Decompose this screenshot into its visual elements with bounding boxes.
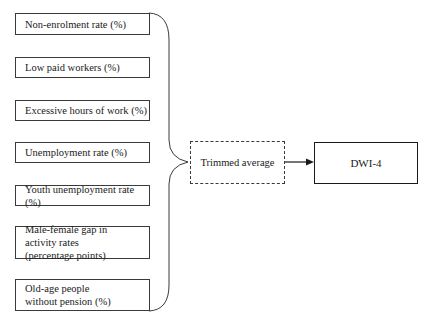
input-old-age-pension: Old-age people without pension (%): [15, 279, 150, 311]
output-label: DWI-4: [350, 157, 381, 169]
input-excessive-hours: Excessive hours of work (%): [15, 100, 150, 121]
aggregator-label: Trimmed average: [201, 157, 275, 168]
input-low-paid: Low paid workers (%): [15, 57, 150, 78]
aggregator-box: Trimmed average: [190, 141, 285, 184]
input-youth-unemployment: Youth unemployment rate (%): [15, 185, 150, 206]
input-label: Youth unemployment rate (%): [25, 183, 149, 209]
input-label: Old-age people without pension (%): [25, 282, 119, 308]
input-label: Unemployment rate (%): [25, 146, 127, 159]
input-label: Non-enrolment rate (%): [25, 18, 126, 31]
input-label: Low paid workers (%): [25, 61, 120, 74]
input-gender-gap: Male-female gap in activity rates (perce…: [15, 226, 150, 259]
input-label: Male-female gap in activity rates (perce…: [25, 223, 129, 262]
input-label: Excessive hours of work (%): [25, 104, 147, 117]
input-unemployment: Unemployment rate (%): [15, 142, 150, 163]
output-box: DWI-4: [314, 142, 418, 184]
arrow-head-icon: [306, 159, 314, 166]
input-non-enrolment: Non-enrolment rate (%): [15, 13, 150, 35]
